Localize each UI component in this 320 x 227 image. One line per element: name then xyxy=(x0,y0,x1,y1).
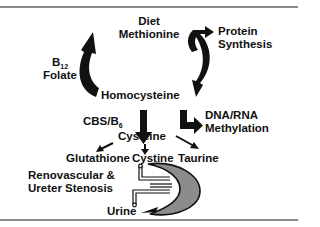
kidney-icon xyxy=(148,163,200,214)
methylation-arrow-icon xyxy=(180,110,203,134)
glutathione-arrow-icon xyxy=(96,143,113,152)
node-cysteine: Cysteine xyxy=(118,130,166,143)
node-protein-synthesis: Protein Synthesis xyxy=(218,25,272,51)
cbs-sub: 6 xyxy=(119,122,123,129)
node-taurine: Taurine xyxy=(178,152,219,165)
protein-synthesis-arrow-icon xyxy=(188,26,214,97)
node-dna-rna-methylation: DNA/RNA Methylation xyxy=(205,109,269,135)
methionine-label: Methionine xyxy=(113,28,185,41)
ureter-stenosis-label: Ureter Stenosis xyxy=(28,182,115,195)
folate-label: Folate xyxy=(40,69,80,82)
node-b12-folate: B12 Folate xyxy=(40,56,80,82)
b12-label: B12 xyxy=(40,56,80,69)
methylation-label: Methylation xyxy=(205,122,269,135)
node-cystine: Cystine xyxy=(132,152,174,165)
node-homocysteine: Homocysteine xyxy=(101,89,180,102)
taurine-arrow-icon xyxy=(176,136,199,149)
remethylation-arrow-icon xyxy=(80,32,99,97)
synthesis-label: Synthesis xyxy=(218,38,272,51)
cbs-base: CBS/B xyxy=(83,115,119,127)
dna-rna-label: DNA/RNA xyxy=(205,109,269,122)
protein-label: Protein xyxy=(218,25,272,38)
b12-base: B xyxy=(52,56,60,68)
node-glutathione: Glutathione xyxy=(66,152,130,165)
renovascular-label: Renovascular & xyxy=(28,169,115,182)
node-renovascular: Renovascular & Ureter Stenosis xyxy=(28,169,115,195)
node-cbs-b6: CBS/B6 xyxy=(83,115,123,128)
diet-label: Diet xyxy=(113,15,185,28)
node-urine: Urine xyxy=(107,205,136,218)
node-diet-methionine: Diet Methionine xyxy=(113,15,185,41)
